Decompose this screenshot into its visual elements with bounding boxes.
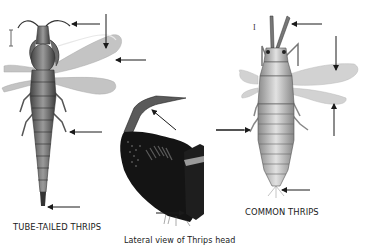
common-thrips: I <box>216 16 358 198</box>
wing-icon <box>2 35 122 94</box>
thrips-figure: I TUBE-TAILED THRIPS Lateral view of Thr… <box>0 0 370 245</box>
scale-bar-icon <box>9 30 13 46</box>
wing-icon <box>239 64 358 105</box>
tube-tailed-thrips <box>2 14 146 207</box>
scale-label: I <box>253 23 256 32</box>
caption-tube-tailed-thrips: TUBE-TAILED THRIPS <box>13 222 101 232</box>
caption-lateral-view: Lateral view of Thrips head <box>124 236 236 245</box>
caption-common-thrips: COMMON THRIPS <box>245 207 319 217</box>
thrips-head-lateral <box>120 96 244 226</box>
